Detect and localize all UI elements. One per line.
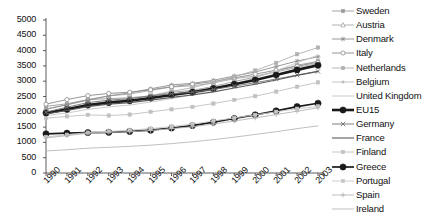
y-axis-tick-label: 4000 [2,46,36,55]
y-axis-tick-label: 2000 [2,107,36,116]
series-layer [43,46,321,151]
legend-item-label: France [356,133,385,143]
legend-item-label: Austria [356,20,385,30]
legend-marker-icon [330,117,356,131]
legend-item-label: Netherlands [356,63,406,73]
y-axis-tick-label: 3500 [2,61,36,70]
legend-item-greece[interactable]: Greece [330,160,437,174]
y-axis-tick-label: 4500 [2,30,36,39]
legend-item-belgium[interactable]: Belgium [330,75,437,89]
y-axis-tick-label: 5000 [2,15,36,24]
axes-layer [43,18,324,176]
legend-item-portugal[interactable]: Portugal [330,174,437,188]
legend-marker-icon [330,188,356,202]
legend-item-eu15[interactable]: EU15 [330,103,437,117]
legend-item-label: Belgium [356,77,389,87]
y-axis-tick-label: 500 [2,153,36,162]
legend-marker-icon [330,131,356,145]
legend-marker-icon [330,61,356,75]
legend-item-label: Denmark [356,34,394,44]
legend-marker-icon [330,103,356,117]
legend-item-label: Sweden [356,6,389,16]
plot-area: 0500100015002000250030003500400045005000… [0,0,330,224]
legend-item-finland[interactable]: Finland [330,145,437,159]
y-axis-tick-label: 2500 [2,92,36,101]
legend-marker-icon [330,75,356,89]
chart-figure: 0500100015002000250030003500400045005000… [0,0,437,224]
y-axis-tick-label: 1000 [2,137,36,146]
legend-item-united-kingdom[interactable]: United Kingdom [330,89,437,103]
legend-item-label: Finland [356,147,386,157]
y-axis-tick-label: 1500 [2,122,36,131]
legend-item-label: Greece [356,162,386,172]
legend-item-italy[interactable]: Italy [330,46,437,60]
legend-marker-icon [330,46,356,60]
legend-item-label: Ireland [356,204,384,214]
series-italy [44,60,320,106]
legend-marker-icon [330,32,356,46]
legend-item-denmark[interactable]: Denmark [330,32,437,46]
legend-marker-icon [330,174,356,188]
legend-marker-icon [330,89,356,103]
legend-item-label: Spain [356,190,380,200]
legend-item-label: EU15 [356,105,379,115]
legend-item-label: Germany [356,119,394,129]
legend-marker-icon [330,18,356,32]
legend-item-label: Portugal [356,176,390,186]
chart-canvas [0,0,330,224]
legend-item-spain[interactable]: Spain [330,188,437,202]
legend-item-sweden[interactable]: Sweden [330,4,437,18]
y-axis-tick-label: 3000 [2,76,36,85]
chart-legend: SwedenAustriaDenmarkItalyNetherlandsBelg… [330,4,437,220]
legend-item-label: Italy [356,48,373,58]
y-axis-tick-label: 0 [2,168,36,177]
legend-marker-icon [330,160,356,174]
legend-item-france[interactable]: France [330,131,437,145]
legend-marker-icon [330,145,356,159]
legend-item-netherlands[interactable]: Netherlands [330,61,437,75]
legend-marker-icon [330,202,356,216]
legend-item-germany[interactable]: Germany [330,117,437,131]
legend-item-ireland[interactable]: Ireland [330,202,437,216]
legend-item-label: United Kingdom [356,91,422,101]
legend-marker-icon [330,4,356,18]
legend-item-austria[interactable]: Austria [330,18,437,32]
